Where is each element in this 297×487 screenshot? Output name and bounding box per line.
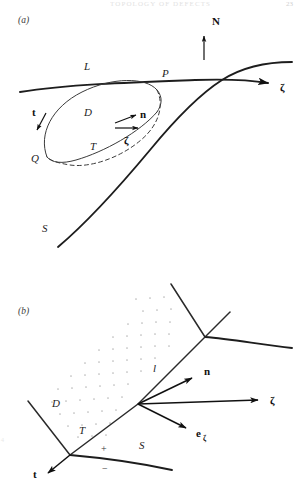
vector-t-label-b: t (33, 468, 37, 480)
vector-t-group-a: t (32, 106, 46, 130)
vector-t-arrow-a (37, 113, 46, 130)
surface-S-label-b: S (139, 439, 145, 451)
vector-n-label-a: n (140, 108, 146, 120)
region-T-label-a: T (90, 140, 97, 152)
vector-N-group: N (204, 15, 220, 60)
figure-root: TOPOLOGY OF DEFECTS 23 4 (a) N ζ (0, 0, 297, 487)
region-D-label-b: D (51, 397, 60, 409)
panel-a-label: (a) (18, 15, 29, 26)
vector-zeta-arrow-b (138, 400, 258, 404)
junction-branch-right-surface (205, 337, 292, 348)
vector-zeta-label-b: ζ (270, 394, 275, 407)
vector-fan-group: n ζ e ζ (138, 365, 275, 443)
panel-b-label: (b) (18, 306, 29, 317)
region-T-label-b: T (79, 424, 86, 436)
vector-n-label-b: n (204, 365, 210, 377)
zeta-axis-label: ζ (280, 81, 285, 94)
vector-t-group-b: t (33, 455, 70, 480)
vector-t-label-a: t (32, 106, 36, 118)
vector-zeta-label-a: ζ (124, 134, 129, 147)
figure-canvas: (a) N ζ S L P Q (0, 0, 297, 487)
vector-e-zeta-label-group: e ζ (196, 427, 207, 443)
line-l-label: l (153, 362, 156, 374)
junction-branch-upright (205, 312, 230, 337)
point-Q-label: Q (31, 152, 39, 164)
panel-b: (b) (18, 284, 292, 480)
line-l-upper-segment (138, 337, 205, 404)
panel-a: (a) N ζ S L P Q (18, 15, 292, 247)
sign-minus: − (102, 463, 108, 474)
junction-branch-upleft (171, 284, 205, 337)
upper-junction-group (171, 284, 292, 348)
vector-e-zeta-arrow (138, 404, 186, 428)
vector-e-zeta-base-label: e (196, 427, 201, 439)
zeta-axis-curve (20, 80, 268, 92)
sign-plus: + (101, 443, 107, 454)
vector-n-arrow-a (115, 115, 136, 123)
vector-e-zeta-subscript-label: ζ (203, 434, 207, 443)
loop-L-label: L (83, 60, 90, 72)
vector-N-label: N (212, 15, 220, 27)
loop-L-dashed (47, 90, 160, 166)
lower-junction-branch-upleft (28, 401, 70, 455)
surface-S-label: S (42, 222, 48, 234)
region-D-label-a: D (83, 106, 92, 118)
vector-n-arrow-b (138, 378, 192, 404)
vector-t-arrow-b (48, 455, 70, 473)
point-P-label: P (161, 67, 169, 79)
lower-junction-group (28, 401, 172, 470)
lower-junction-branch-right-surface (70, 455, 172, 470)
